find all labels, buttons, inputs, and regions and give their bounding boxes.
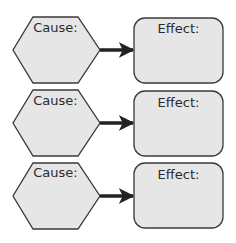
- cause-label-1: Cause:: [33, 21, 78, 35]
- effect-label-2: Effect:: [134, 96, 223, 110]
- cause-label-2: Cause:: [33, 94, 78, 108]
- effect-label-1: Effect:: [134, 22, 223, 36]
- cause-effect-diagram: [0, 0, 236, 243]
- effect-label-3: Effect:: [134, 168, 223, 182]
- cause-label-3: Cause:: [33, 166, 78, 180]
